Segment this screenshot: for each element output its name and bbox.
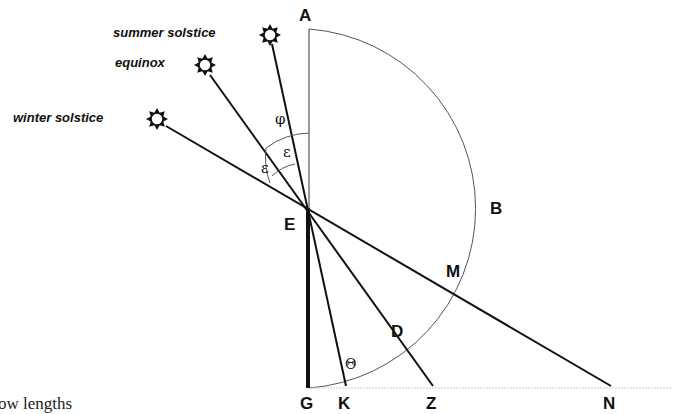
angle-theta: Θ	[345, 356, 356, 372]
label-equinox: equinox	[115, 55, 165, 70]
point-M: M	[446, 262, 460, 282]
point-B: B	[490, 199, 502, 219]
angle-epsilon-2: ε	[261, 159, 269, 177]
label-winter-solstice: winter solstice	[13, 110, 103, 125]
angle-epsilon-1: ε	[283, 143, 291, 161]
caption-fragment: ow lengths	[0, 394, 72, 414]
label-summer-solstice: summer solstice	[113, 25, 216, 40]
point-D: D	[391, 322, 403, 342]
sun-icon-equinox	[194, 54, 216, 76]
ray-winter-to-N	[166, 126, 611, 386]
point-E: E	[284, 215, 295, 235]
sun-icon-summer	[259, 24, 281, 46]
point-N: N	[603, 394, 615, 414]
angle-phi: φ	[275, 110, 286, 128]
point-Z: Z	[426, 394, 436, 414]
point-G: G	[300, 394, 313, 414]
point-K: K	[338, 394, 350, 414]
sun-icon-winter	[146, 108, 168, 130]
point-A: A	[299, 6, 311, 26]
